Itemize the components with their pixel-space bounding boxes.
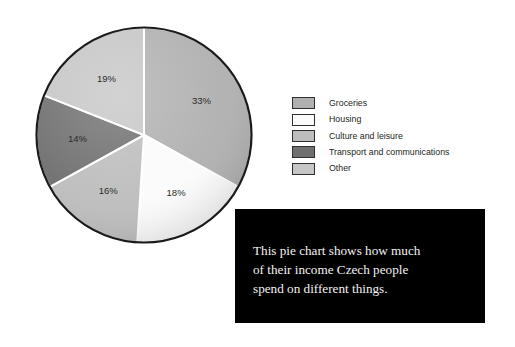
legend-color-swatch — [292, 146, 315, 158]
caption-text: This pie chart shows how much of their i… — [253, 241, 467, 298]
legend-item: Other — [292, 161, 507, 177]
legend-item-label: Groceries — [329, 99, 367, 108]
legend-color-swatch — [292, 97, 315, 109]
pie-chart: 33%18%16%14%19% — [30, 21, 258, 249]
legend-item-label: Housing — [329, 115, 361, 124]
legend-color-swatch — [292, 163, 315, 175]
pie-slice-value-label: 18% — [167, 187, 187, 198]
legend-item-label: Culture and leisure — [329, 132, 403, 141]
pie-slice-value-label: 33% — [192, 95, 212, 106]
legend-item: Groceries — [292, 95, 507, 111]
legend-item: Transport and communications — [292, 144, 507, 160]
pie-chart-svg: 33%18%16%14%19% — [30, 21, 258, 249]
pie-slice-value-label: 16% — [99, 185, 119, 196]
pie-slice-value-label: 14% — [68, 133, 88, 144]
legend-item-label: Transport and communications — [329, 148, 449, 157]
legend-item: Housing — [292, 111, 507, 127]
caption-box: This pie chart shows how much of their i… — [235, 209, 485, 323]
page-root: 33%18%16%14%19% GroceriesHousingCulture … — [0, 0, 515, 347]
chart-legend: GroceriesHousingCulture and leisureTrans… — [292, 95, 507, 177]
legend-item: Culture and leisure — [292, 128, 507, 144]
legend-color-swatch — [292, 130, 315, 142]
legend-item-label: Other — [329, 164, 351, 173]
legend-color-swatch — [292, 114, 315, 126]
pie-slice-value-label: 19% — [97, 73, 117, 84]
